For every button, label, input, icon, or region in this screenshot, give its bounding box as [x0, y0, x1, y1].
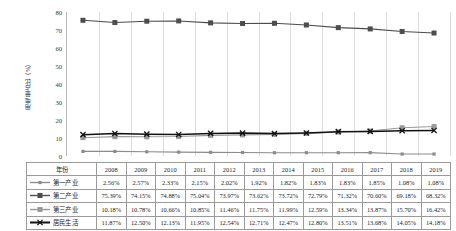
table-header-row: 年份 2008200920102011201220132014201520162…	[27, 163, 451, 176]
data-point	[209, 150, 212, 153]
data-table: 年份 2008200920102011201220132014201520162…	[26, 162, 451, 230]
cell: 12.47%	[274, 216, 304, 229]
cell: 13.87%	[362, 203, 392, 216]
cell: 11.75%	[244, 203, 274, 216]
series-line	[83, 20, 434, 33]
y-axis-tick-labels: 01020304050607080	[42, 8, 64, 156]
column-header-2015: 2015	[303, 163, 333, 176]
cell: 12.71%	[244, 216, 274, 229]
cell: 11.99%	[274, 203, 304, 216]
cell: 72.79%	[303, 189, 333, 202]
legend-marker-icon	[29, 178, 51, 187]
cell: 1.92%	[244, 176, 274, 189]
data-point	[112, 20, 117, 25]
data-table-block: 年份 2008200920102011201220132014201520162…	[26, 162, 450, 226]
cell: 10.66%	[156, 203, 186, 216]
cell: 2.02%	[215, 176, 245, 189]
cell: 13.68%	[362, 216, 392, 229]
series-第一产业	[81, 149, 435, 155]
series-label: 第二产业	[53, 191, 78, 200]
cell: 1.83%	[333, 176, 363, 189]
column-header-2017: 2017	[362, 163, 392, 176]
series-lines	[67, 12, 450, 156]
cell: 2.57%	[126, 176, 156, 189]
legend-marker-glyph	[38, 181, 41, 184]
series-line	[83, 126, 434, 137]
series-第三产业	[80, 123, 436, 139]
data-point	[304, 22, 309, 27]
data-point	[432, 152, 435, 155]
cell: 70.60%	[362, 189, 392, 202]
cell: 2.33%	[156, 176, 186, 189]
cell: 11.95%	[185, 216, 215, 229]
data-point	[80, 17, 85, 22]
cell: 14.18%	[421, 216, 451, 229]
table-row: 第三产业10.18%10.78%10.66%10.85%11.46%11.75%…	[27, 203, 451, 216]
cell: 15.70%	[392, 203, 422, 216]
series-第二产业	[80, 17, 436, 35]
legend-marker-icon	[29, 205, 51, 214]
cell: 1.85%	[362, 176, 392, 189]
cell: 10.78%	[126, 203, 156, 216]
cell: 73.72%	[274, 189, 304, 202]
cell: 10.18%	[97, 203, 127, 216]
cell: 69.18%	[392, 189, 422, 202]
y-tick-50: 50	[55, 62, 62, 69]
data-point	[113, 149, 116, 152]
data-point	[177, 150, 180, 153]
y-tick-80: 80	[55, 8, 62, 15]
cell: 12.54%	[215, 216, 245, 229]
cell: 68.32%	[421, 189, 451, 202]
data-point	[305, 151, 308, 154]
y-tick-20: 20	[55, 116, 62, 123]
cell: 73.97%	[215, 189, 245, 202]
data-point	[273, 151, 276, 154]
data-point	[208, 20, 213, 25]
data-point	[176, 18, 181, 23]
table-row: 居民生活11.87%12.50%12.13%11.95%12.54%12.71%…	[27, 216, 451, 229]
series-label: 居民生活	[53, 218, 78, 227]
column-header-2019: 2019	[421, 163, 451, 176]
series-line	[83, 151, 434, 154]
cell: 75.39%	[97, 189, 127, 202]
data-point	[240, 20, 245, 25]
cell: 12.50%	[126, 216, 156, 229]
row-header-居民生活: 居民生活	[27, 216, 97, 229]
data-point	[369, 151, 372, 154]
column-header-2013: 2013	[244, 163, 274, 176]
data-point	[241, 150, 244, 153]
y-tick-40: 40	[55, 80, 62, 87]
y-axis-title: 用电量占比（%）	[22, 40, 34, 130]
series-label: 第三产业	[53, 205, 78, 214]
column-header-2010: 2010	[156, 163, 186, 176]
data-point	[145, 150, 148, 153]
data-point	[272, 20, 277, 25]
cell: 75.04%	[185, 189, 215, 202]
cell: 16.42%	[421, 203, 451, 216]
cell: 1.83%	[303, 176, 333, 189]
data-point	[81, 149, 84, 152]
data-point	[432, 30, 437, 35]
column-header-2011: 2011	[185, 163, 215, 176]
y-tick-70: 70	[55, 26, 62, 33]
cell: 74.15%	[126, 189, 156, 202]
row-header-第三产业: 第三产业	[27, 203, 97, 216]
data-point	[336, 25, 341, 30]
cell: 2.56%	[97, 176, 127, 189]
data-point	[144, 18, 149, 23]
cell: 74.88%	[156, 189, 186, 202]
data-point	[400, 28, 405, 33]
cell: 11.87%	[97, 216, 127, 229]
column-header-2018: 2018	[392, 163, 422, 176]
table-row: 第二产业75.39%74.15%74.88%75.04%73.97%73.62%…	[27, 189, 451, 202]
legend-marker-icon	[29, 191, 51, 200]
data-point	[337, 151, 340, 154]
cell: 12.13%	[156, 216, 186, 229]
table-corner-header: 年份	[27, 163, 97, 176]
legend-marker-glyph	[38, 207, 43, 212]
column-header-2016: 2016	[333, 163, 363, 176]
row-header-第二产业: 第二产业	[27, 189, 97, 202]
cell: 10.85%	[185, 203, 215, 216]
cell: 2.15%	[185, 176, 215, 189]
series-label: 第一产业	[53, 178, 78, 187]
